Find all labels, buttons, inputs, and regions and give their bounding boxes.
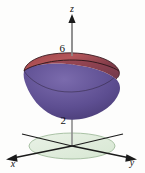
y-axis-label: y [129,157,135,168]
z-axis-label: z [69,3,74,14]
z-tick-label-2: 2 [61,114,67,126]
surface-plot-svg: z x y 6 2 [0,0,145,173]
arrow-up-icon [68,14,75,23]
figure-canvas: z x y 6 2 [0,0,145,173]
x-axis-label: x [10,158,16,169]
z-tick-label-6: 6 [60,42,66,54]
